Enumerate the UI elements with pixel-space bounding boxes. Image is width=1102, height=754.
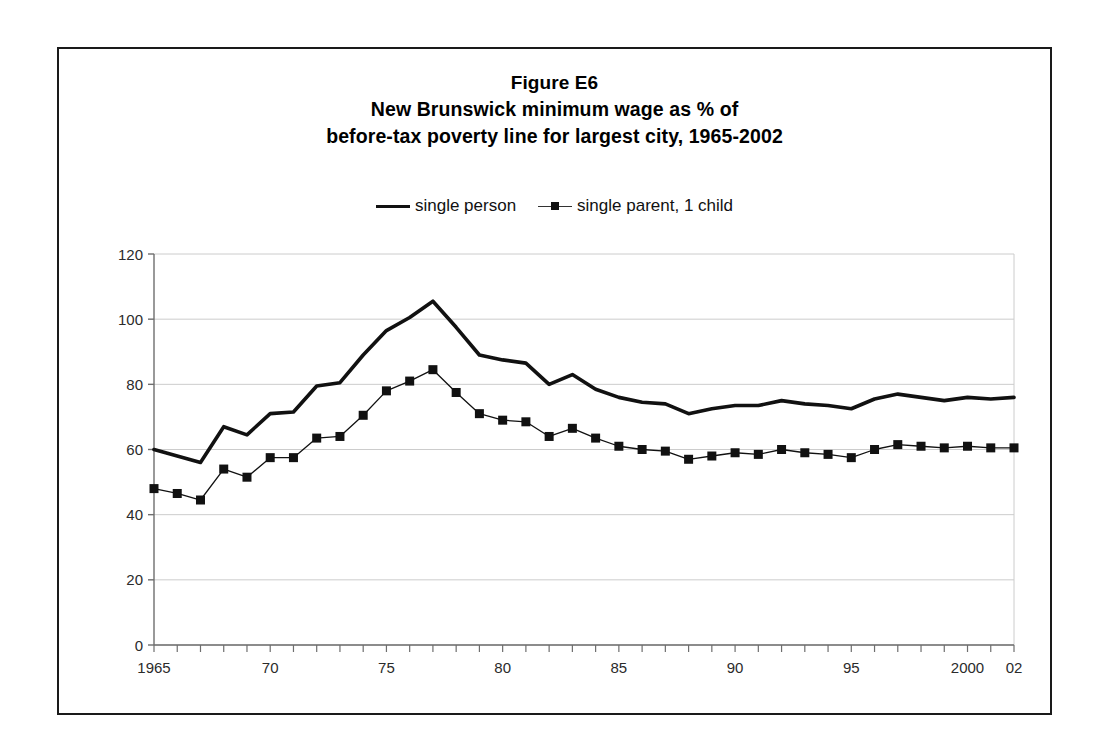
data-series-layer (150, 301, 1019, 504)
series-marker-1 (777, 445, 786, 454)
series-marker-1 (917, 442, 926, 451)
series-marker-1 (940, 443, 949, 452)
series-marker-1 (150, 484, 159, 493)
y-tick-label: 40 (126, 506, 143, 523)
x-tick-label: 75 (378, 659, 395, 676)
series-marker-1 (219, 465, 228, 474)
series-marker-1 (359, 411, 368, 420)
series-marker-1 (870, 445, 879, 454)
series-marker-1 (707, 452, 716, 461)
x-tick-label: 90 (727, 659, 744, 676)
series-marker-1 (684, 455, 693, 464)
x-tick-label: 80 (494, 659, 511, 676)
y-axis-tick-labels: 020406080100120 (118, 246, 143, 654)
series-marker-1 (475, 409, 484, 418)
y-tick-label: 60 (126, 441, 143, 458)
series-marker-1 (963, 442, 972, 451)
y-tick-label: 100 (118, 311, 143, 328)
series-line-1 (154, 370, 1014, 500)
series-marker-1 (754, 450, 763, 459)
series-marker-1 (568, 424, 577, 433)
series-marker-1 (405, 377, 414, 386)
y-tick-label: 20 (126, 571, 143, 588)
series-marker-1 (614, 442, 623, 451)
series-marker-1 (312, 434, 321, 443)
series-marker-1 (498, 416, 507, 425)
series-marker-1 (731, 448, 740, 457)
x-tick-label: 70 (262, 659, 279, 676)
x-axis-tick-labels: 1965707580859095200002 (137, 659, 1022, 676)
series-marker-1 (335, 432, 344, 441)
series-line-0 (154, 301, 1014, 462)
plot-area: 020406080100120 1965707580859095200002 (59, 49, 1054, 717)
y-tick-label: 80 (126, 376, 143, 393)
series-marker-1 (173, 489, 182, 498)
series-marker-1 (196, 496, 205, 505)
series-marker-1 (824, 450, 833, 459)
x-axis-ticks (154, 645, 1014, 652)
series-marker-1 (986, 443, 995, 452)
series-marker-1 (1010, 443, 1019, 452)
x-tick-label: 1965 (137, 659, 170, 676)
series-marker-1 (521, 417, 530, 426)
x-tick-label: 2000 (951, 659, 984, 676)
figure-frame: Figure E6 New Brunswick minimum wage as … (57, 47, 1052, 715)
series-marker-1 (847, 453, 856, 462)
series-marker-1 (800, 448, 809, 457)
y-tick-label: 120 (118, 246, 143, 263)
series-marker-1 (242, 473, 251, 482)
x-tick-label: 95 (843, 659, 860, 676)
y-tick-label: 0 (135, 637, 143, 654)
series-marker-1 (661, 447, 670, 456)
series-marker-1 (638, 445, 647, 454)
series-marker-1 (289, 453, 298, 462)
y-gridlines (154, 254, 1014, 645)
series-marker-1 (452, 388, 461, 397)
x-tick-label: 02 (1006, 659, 1023, 676)
x-tick-label: 85 (611, 659, 628, 676)
series-marker-1 (382, 386, 391, 395)
figure-page: Figure E6 New Brunswick minimum wage as … (0, 0, 1102, 754)
series-marker-1 (591, 434, 600, 443)
chart-canvas: 020406080100120 1965707580859095200002 (59, 49, 1054, 717)
series-marker-1 (545, 432, 554, 441)
series-marker-1 (893, 440, 902, 449)
series-marker-1 (428, 365, 437, 374)
series-marker-1 (266, 453, 275, 462)
